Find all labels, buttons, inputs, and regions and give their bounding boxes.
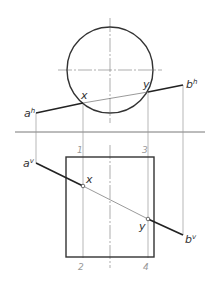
- line-ab-front-visible-right: [148, 219, 183, 235]
- label-ah: ah: [24, 107, 35, 120]
- label-bv: bv: [185, 233, 197, 246]
- line-ab-front-visible-left: [36, 163, 83, 186]
- projection-numbers: 1 3 2 4: [77, 145, 149, 272]
- line-ab-top-visible-left: [36, 103, 83, 113]
- label-x-top: x: [80, 89, 88, 102]
- top-view: ah bh x y: [24, 18, 197, 123]
- point-x-front-marker: [81, 184, 85, 188]
- number-1: 1: [77, 145, 83, 155]
- front-view: av bv x y: [23, 145, 197, 268]
- label-av: av: [23, 157, 35, 170]
- number-3: 3: [142, 145, 148, 155]
- line-ab-top-hidden: [83, 92, 148, 103]
- label-bh: bh: [186, 78, 197, 91]
- label-y-top: y: [142, 78, 150, 91]
- projection-drawing: ah bh x y av bv x y 1 3 2 4: [0, 0, 212, 286]
- number-2: 2: [78, 262, 84, 272]
- line-ab-front-hidden: [83, 186, 148, 219]
- number-4: 4: [143, 262, 149, 272]
- projector-lines: [36, 85, 183, 258]
- point-y-front-marker: [146, 217, 150, 221]
- label-x-front: x: [85, 173, 93, 186]
- label-y-front: y: [138, 220, 146, 233]
- line-ab-top-visible-right: [148, 85, 183, 92]
